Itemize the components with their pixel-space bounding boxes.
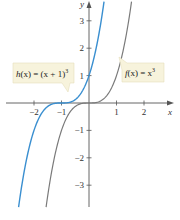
h-label-callout: h(x) = (x + 1)3 [13,63,74,92]
x-axis-arrow-icon [167,101,174,106]
f-label-text: f(x) = x3 [125,67,155,78]
h-label-text: h(x) = (x + 1)3 [16,68,68,79]
y-axis-arrow-icon [87,1,92,8]
y-axis-label: y [79,0,84,9]
x-tick-label: −2 [29,107,39,117]
y-tick-label: −3 [74,180,84,190]
f-label-callout: f(x) = x3 [119,57,164,82]
x-tick-label: 1 [114,107,119,117]
y-tick-label: 1 [80,71,85,81]
y-tick-label: −2 [74,153,84,163]
x-tick-label: 2 [142,107,147,117]
y-tick-label: 3 [80,16,85,26]
x-tick-label: −1 [57,107,67,117]
y-tick-label: 2 [80,43,85,53]
cubic-functions-chart: x y −2−112 321−1−2−3 h(x) = (x + 1)3 f(x… [0,0,180,220]
y-tick-label: −1 [74,125,84,135]
x-axis-label: x [167,107,172,117]
